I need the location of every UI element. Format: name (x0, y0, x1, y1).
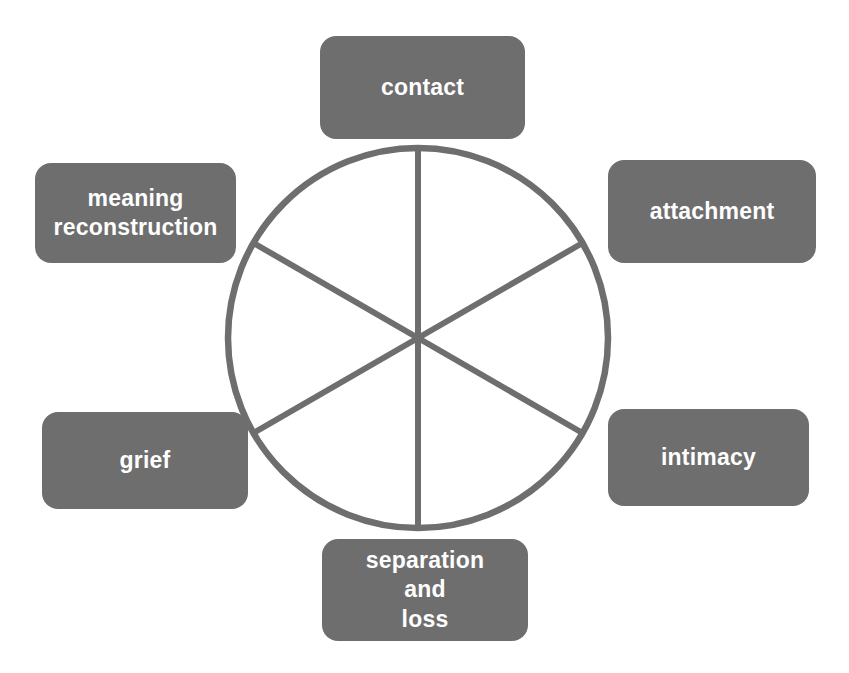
diagram-canvas: contact attachment intimacy separation a… (0, 0, 849, 673)
node-meaning-reconstruction-label: meaning reconstruction (54, 184, 218, 243)
node-grief[interactable]: grief (42, 412, 248, 509)
node-contact-label: contact (381, 73, 464, 102)
node-grief-label: grief (120, 446, 171, 475)
node-separation-and-loss[interactable]: separation and loss (322, 539, 528, 641)
node-separation-and-loss-label: separation and loss (366, 546, 484, 634)
node-intimacy-label: intimacy (661, 443, 756, 472)
node-intimacy[interactable]: intimacy (608, 409, 809, 506)
node-meaning-reconstruction[interactable]: meaning reconstruction (35, 163, 236, 263)
node-attachment-label: attachment (650, 197, 775, 226)
node-attachment[interactable]: attachment (608, 160, 816, 263)
node-contact[interactable]: contact (320, 36, 525, 139)
